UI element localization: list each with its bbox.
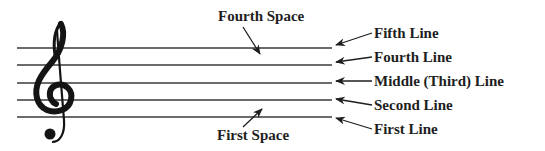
- fourth-line-label: Fourth Line: [374, 49, 452, 65]
- first-line-label: First Line: [374, 121, 438, 137]
- treble-clef-icon: [36, 22, 71, 142]
- staff-diagram: Fourth Space First Space Fifth Line Four…: [0, 0, 545, 151]
- fifth-line-label: Fifth Line: [374, 25, 439, 41]
- second-line-label: Second Line: [374, 97, 453, 113]
- middle-line-label: Middle (Third) Line: [374, 73, 504, 89]
- fourth-space-arrow: [243, 27, 260, 54]
- first-space-arrow: [243, 109, 262, 127]
- fourth-line-arrow: [336, 57, 372, 62]
- first-space-label: First Space: [217, 127, 289, 143]
- first-line-arrow: [336, 118, 372, 129]
- second-line-arrow: [336, 99, 372, 105]
- fifth-line-arrow: [336, 33, 372, 45]
- fourth-space-label: Fourth Space: [218, 8, 304, 24]
